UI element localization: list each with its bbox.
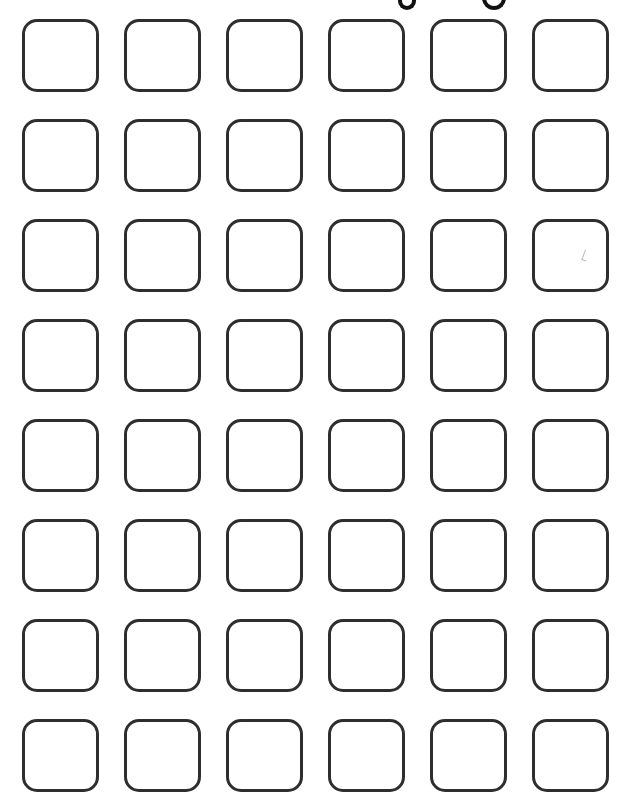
pencil-mark — [581, 249, 589, 261]
grid-box[interactable] — [124, 519, 201, 592]
grid-box[interactable] — [328, 619, 405, 692]
grid-box[interactable] — [430, 19, 507, 92]
grid-box[interactable] — [22, 619, 99, 692]
grid-box[interactable] — [430, 219, 507, 292]
grid-box[interactable] — [22, 419, 99, 492]
grid-box[interactable] — [124, 119, 201, 192]
grid-box[interactable] — [226, 719, 303, 792]
grid-box[interactable] — [328, 719, 405, 792]
grid-box[interactable] — [532, 519, 609, 592]
grid-box[interactable] — [532, 19, 609, 92]
grid-box[interactable] — [532, 719, 609, 792]
grid-box[interactable] — [226, 119, 303, 192]
grid-box[interactable] — [532, 419, 609, 492]
grid-box[interactable] — [22, 119, 99, 192]
grid-box[interactable] — [124, 619, 201, 692]
box-grid — [22, 19, 609, 792]
grid-box[interactable] — [22, 519, 99, 592]
grid-box[interactable] — [22, 19, 99, 92]
grid-box[interactable] — [226, 419, 303, 492]
grid-box[interactable] — [124, 419, 201, 492]
grid-box[interactable] — [532, 119, 609, 192]
grid-box[interactable] — [328, 519, 405, 592]
grid-box[interactable] — [328, 319, 405, 392]
page-title — [0, 0, 623, 14]
grid-box[interactable] — [226, 619, 303, 692]
grid-box[interactable] — [124, 319, 201, 392]
grid-box[interactable] — [328, 419, 405, 492]
grid-box[interactable] — [124, 19, 201, 92]
grid-box[interactable] — [226, 519, 303, 592]
grid-box[interactable] — [328, 219, 405, 292]
grid-box[interactable] — [430, 719, 507, 792]
grid-box[interactable] — [430, 319, 507, 392]
grid-box[interactable] — [124, 219, 201, 292]
grid-box[interactable] — [226, 19, 303, 92]
grid-box[interactable] — [532, 319, 609, 392]
grid-box[interactable] — [22, 719, 99, 792]
grid-box[interactable] — [430, 119, 507, 192]
grid-box[interactable] — [532, 219, 609, 292]
grid-box[interactable] — [328, 19, 405, 92]
grid-box[interactable] — [22, 219, 99, 292]
grid-box[interactable] — [430, 619, 507, 692]
grid-box[interactable] — [328, 119, 405, 192]
grid-box[interactable] — [430, 419, 507, 492]
page-title-cropped — [0, 0, 623, 14]
grid-box[interactable] — [226, 219, 303, 292]
grid-box[interactable] — [430, 519, 507, 592]
grid-box[interactable] — [124, 719, 201, 792]
grid-box[interactable] — [532, 619, 609, 692]
grid-box[interactable] — [22, 319, 99, 392]
grid-box[interactable] — [226, 319, 303, 392]
